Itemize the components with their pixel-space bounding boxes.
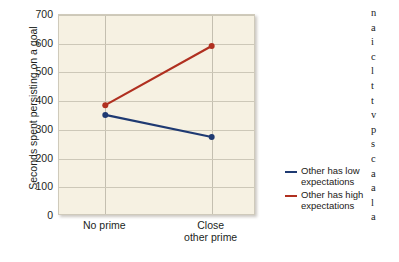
legend-label-low-line1: Other has low bbox=[301, 165, 360, 176]
body-text-line: l bbox=[371, 64, 399, 79]
legend-label-high-line2: expectations bbox=[301, 200, 354, 211]
y-axis-tick-label: 300 bbox=[13, 123, 53, 135]
body-text-line: a bbox=[371, 21, 399, 36]
body-text-line: t bbox=[371, 79, 399, 94]
x-axis-tick-label: Closeother prime bbox=[166, 220, 256, 243]
legend-swatch-low bbox=[285, 171, 297, 173]
body-text-line: n bbox=[371, 6, 399, 21]
legend-item-low: Other has low expectations bbox=[285, 166, 367, 187]
series-line-0 bbox=[105, 115, 211, 137]
plot-area bbox=[58, 14, 255, 215]
x-axis-tick-label: No prime bbox=[59, 220, 149, 232]
series-point-1 bbox=[102, 102, 108, 108]
chart-legend: Other has low expectations Other has hig… bbox=[285, 166, 367, 214]
legend-item-high: Other has high expectations bbox=[285, 190, 367, 211]
y-axis-tick-label: 600 bbox=[13, 37, 53, 49]
body-text-line: s bbox=[371, 137, 399, 152]
series-line-1 bbox=[105, 46, 211, 105]
series-point-0 bbox=[102, 112, 108, 118]
y-axis-tick-label: 200 bbox=[13, 152, 53, 164]
x-axis-tick-label-line1: No prime bbox=[83, 219, 126, 231]
series-point-1 bbox=[209, 43, 215, 49]
y-axis-tick-label: 100 bbox=[13, 180, 53, 192]
body-text-line: t bbox=[371, 94, 399, 109]
figure-line-chart: Seconds spent persisting on a goal 01002… bbox=[0, 0, 399, 262]
plot-series-svg bbox=[59, 15, 255, 215]
legend-label-high-line1: Other has high bbox=[301, 189, 363, 200]
body-text-line: p bbox=[371, 123, 399, 138]
legend-label-low-line2: expectations bbox=[301, 176, 354, 187]
y-axis-tick-label: 700 bbox=[13, 8, 53, 20]
y-axis-tick-label: 0 bbox=[13, 209, 53, 221]
x-axis-tick-label-line2: other prime bbox=[184, 231, 237, 243]
body-text-line: l bbox=[371, 196, 399, 211]
y-axis-tick-label: 400 bbox=[13, 94, 53, 106]
adjacent-body-text-column: naiclttvpscaala bbox=[371, 6, 399, 258]
body-text-line: c bbox=[371, 152, 399, 167]
legend-label-high: Other has high expectations bbox=[301, 190, 363, 211]
body-text-line: c bbox=[371, 50, 399, 65]
legend-label-low: Other has low expectations bbox=[301, 166, 360, 187]
y-axis-tick-label: 500 bbox=[13, 65, 53, 77]
body-text-line: v bbox=[371, 108, 399, 123]
body-text-line: a bbox=[371, 181, 399, 196]
body-text-line: i bbox=[371, 35, 399, 50]
legend-swatch-high bbox=[285, 195, 297, 197]
series-point-0 bbox=[209, 134, 215, 140]
body-text-line: a bbox=[371, 167, 399, 182]
body-text-line: a bbox=[371, 210, 399, 225]
x-axis-tick-label-line1: Close bbox=[197, 219, 224, 231]
